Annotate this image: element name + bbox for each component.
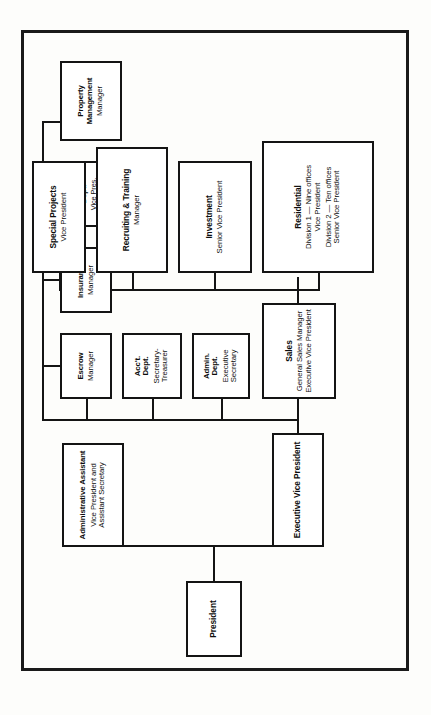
connector-to-recruiting [132,271,134,291]
property-management-title-line-2: Management [86,77,94,124]
escrow-subtitle-1: Manager [87,350,96,380]
org-node-president[interactable]: President [186,581,242,657]
connector-to-residential [318,271,320,291]
sales-subtitle-2: Executive Vice President [305,309,314,393]
org-node-executive-vice-president[interactable]: Executive Vice President [272,433,324,547]
administrative-assistant-subtitle-2: Assistant Secretary [98,462,107,527]
org-node-escrow[interactable]: Escrow Manager [60,333,112,399]
connector-department-bus [86,418,299,420]
connector-to-acct-dept [152,397,154,421]
special-projects-subtitle-1: Vice President [60,192,69,241]
connector-to-escrow [86,397,88,421]
org-node-admin-dept[interactable]: Admin. Dept. Executive Secretary [192,333,250,399]
org-node-special-projects[interactable]: Special Projects Vice President [32,161,86,273]
org-node-residential[interactable]: Residential Division 1 — Nine offices Vi… [262,141,374,273]
property-management-subtitle-1: Manager [96,85,105,115]
connector-to-sales [297,397,299,421]
org-node-administrative-assistant[interactable]: Administrative Assistant Vice President … [62,443,124,547]
escrow-title: Escrow [77,352,85,379]
president-title: President [209,600,218,637]
org-node-acct-dept[interactable]: Acc't. Dept. Secretary- Treasurer [122,333,182,399]
chart-outer-frame: President Administrative Assistant Vice … [21,30,409,671]
connector-to-admin-dept [221,397,223,421]
special-projects-title: Special Projects [49,185,58,248]
residential-subtitle-4: Senior Vice President [333,170,342,243]
connector-top-bus-riser [42,418,88,420]
administrative-assistant-title: Administrative Assistant [79,450,87,539]
investment-title: Investment [205,195,214,238]
acct-dept-title-line-2: Dept. [142,356,150,375]
residential-subtitle-2: Vice President [314,182,323,231]
org-node-investment[interactable]: Investment Senior Vice President [178,161,252,273]
recruiting-training-title: Recruiting & Training [122,168,131,251]
chart-page: President Administrative Assistant Vice … [0,0,431,715]
admin-dept-subtitle-2: Secretary [230,349,239,381]
org-chart-canvas: President Administrative Assistant Vice … [26,37,404,665]
executive-vice-president-title: Executive Vice President [293,441,302,538]
org-node-recruiting-training[interactable]: Recruiting & Training Manager [96,147,168,273]
sales-title: Sales [285,340,294,361]
connector-drop-escrow [42,364,60,366]
connector-drop-insurance [42,278,60,280]
org-node-sales[interactable]: Sales General Sales Manager Executive Vi… [262,303,336,399]
insurance-subtitle-1: Manager [87,264,96,294]
admin-dept-title-line-2: Dept. [211,356,219,375]
recruiting-training-subtitle-1: Manager [133,194,142,224]
connector-to-investment [214,271,216,291]
connector-president-right [213,545,215,581]
org-node-property-management[interactable]: Property Management Manager [60,61,122,141]
acct-dept-subtitle-2: Treasurer [161,349,170,382]
residential-title: Residential [294,185,303,229]
connector-residential-riser [297,288,320,290]
connector-drop-property [42,120,60,122]
investment-subtitle-1: Senior Vice President [216,180,225,253]
